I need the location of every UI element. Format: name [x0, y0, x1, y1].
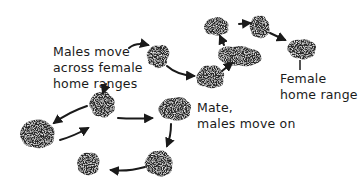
home-range-blob — [89, 92, 115, 118]
arrow-icon — [60, 128, 88, 140]
home-range-blob — [158, 97, 191, 121]
arrow-icon — [167, 66, 194, 76]
arrow-icon — [220, 36, 224, 45]
label-female-home-range: Female home range — [280, 71, 358, 103]
label-line: home ranges — [53, 76, 143, 92]
home-range-blob — [147, 45, 170, 68]
home-range-blob — [204, 17, 229, 36]
home-range-blob — [287, 39, 316, 59]
arrow-icon — [118, 118, 152, 119]
label-mate: Mate, males move on — [197, 100, 296, 132]
label-males-move: Males move across female home ranges — [53, 44, 143, 92]
home-range-blob — [250, 16, 270, 38]
arrow-icon — [111, 167, 145, 171]
home-range-blob — [218, 46, 261, 66]
label-line: Female — [280, 71, 358, 87]
home-range-blob — [196, 66, 224, 89]
home-range-blob — [145, 151, 173, 177]
arrow-icon — [54, 106, 87, 123]
home-range-blob — [77, 153, 99, 175]
home-range-blob — [20, 120, 54, 149]
arrow-icon — [167, 124, 171, 146]
arrow-icon — [270, 33, 285, 40]
label-line: home range — [280, 87, 358, 103]
label-line: Males move — [53, 44, 143, 60]
arrow-icon — [239, 23, 250, 24]
label-line: males move on — [197, 116, 296, 132]
label-line: across female — [53, 60, 143, 76]
